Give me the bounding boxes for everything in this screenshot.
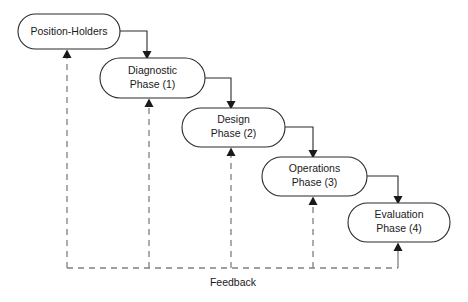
node-position-holders[interactable]: Position-Holders bbox=[18, 14, 120, 49]
node-design-phase-label-line2: Phase (2) bbox=[211, 127, 257, 139]
node-diagnostic-phase[interactable]: Diagnostic Phase (1) bbox=[100, 58, 205, 98]
node-operations-phase[interactable]: Operations Phase (3) bbox=[262, 157, 367, 196]
node-operations-phase-label-line2: Phase (3) bbox=[292, 176, 338, 188]
connector-position-holders-to-diagnostic bbox=[120, 31, 152, 60]
node-position-holders-label: Position-Holders bbox=[30, 25, 107, 37]
feedback-riser-from-evaluation bbox=[394, 243, 403, 269]
diagram-canvas: Position-Holders Diagnostic Phase (1) De… bbox=[0, 0, 468, 302]
node-diagnostic-phase-label-line2: Phase (1) bbox=[130, 78, 176, 90]
node-operations-phase-label-line1: Operations bbox=[289, 162, 340, 174]
connector-design-to-operations bbox=[285, 127, 318, 159]
process-flow-diagram: Position-Holders Diagnostic Phase (1) De… bbox=[0, 0, 468, 302]
connector-diagnostic-to-design bbox=[205, 78, 236, 110]
node-diagnostic-phase-label-line1: Diagnostic bbox=[128, 64, 177, 76]
feedback-branch-to-position-holders bbox=[63, 50, 72, 269]
node-design-phase[interactable]: Design Phase (2) bbox=[182, 108, 285, 147]
feedback-label: Feedback bbox=[210, 276, 257, 288]
feedback-branch-to-design bbox=[227, 148, 236, 269]
node-evaluation-phase-label-line1: Evaluation bbox=[374, 208, 423, 220]
node-design-phase-label-line1: Design bbox=[217, 113, 250, 125]
feedback-branch-to-diagnostic bbox=[145, 99, 154, 269]
feedback-branch-to-operations bbox=[309, 197, 318, 269]
connector-operations-to-evaluation bbox=[367, 176, 403, 205]
node-evaluation-phase[interactable]: Evaluation Phase (4) bbox=[348, 203, 450, 242]
node-evaluation-phase-label-line2: Phase (4) bbox=[376, 222, 422, 234]
